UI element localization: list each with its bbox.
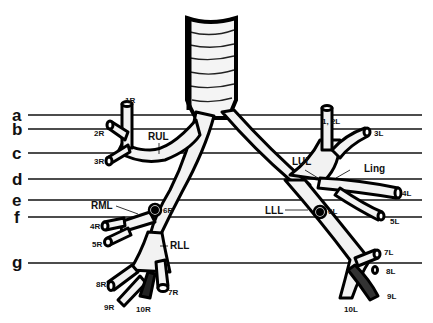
- segment-label-10l: 10L: [344, 306, 358, 314]
- lobe-label-rml: RML: [91, 201, 113, 211]
- trachea: [187, 18, 236, 118]
- segment-label-6r: 6R: [163, 207, 173, 215]
- lobe-label-lll: LLL: [265, 206, 283, 216]
- segment-label-9l: 9L: [387, 293, 396, 301]
- lobe-label-rll: RLL: [170, 241, 189, 251]
- segment-label-1-2l: 1, 2L: [322, 118, 340, 126]
- level-label-c: c: [12, 145, 21, 162]
- lobe-label-rul: RUL: [148, 132, 169, 142]
- segment-label-5l: 5L: [390, 218, 399, 226]
- segment-label-7l: 7L: [384, 249, 393, 257]
- segment-label-10r: 10R: [136, 306, 151, 314]
- segment-label-5r: 5R: [92, 241, 102, 249]
- bronchial-tree-drawing: [0, 0, 433, 323]
- segment-label-4r: 4R: [90, 223, 100, 231]
- segment-label-1r: 1R: [125, 97, 135, 105]
- segment-label-8l: 8L: [386, 268, 395, 276]
- bronchial-tree-diagram: a b c d e f g RUL RML RLL LUL Ling LLL 1…: [0, 0, 433, 323]
- segment-label-2r: 2R: [94, 130, 104, 138]
- level-label-b: b: [12, 121, 22, 138]
- segment-label-3l: 3L: [374, 130, 383, 138]
- segment-label-4l: 4L: [402, 190, 411, 198]
- level-label-f: f: [14, 209, 20, 226]
- segment-label-7r: 7R: [168, 289, 178, 297]
- level-label-g: g: [12, 254, 22, 271]
- level-label-d: d: [12, 171, 22, 188]
- level-label-e: e: [12, 192, 21, 209]
- lobe-label-lul: LUL: [292, 157, 311, 167]
- segment-label-3r: 3R: [94, 158, 104, 166]
- lobe-label-ling: Ling: [364, 164, 385, 174]
- segment-label-8r: 8R: [96, 281, 106, 289]
- segment-label-9r: 9R: [104, 304, 114, 312]
- segment-label-6l: 6L: [328, 208, 337, 216]
